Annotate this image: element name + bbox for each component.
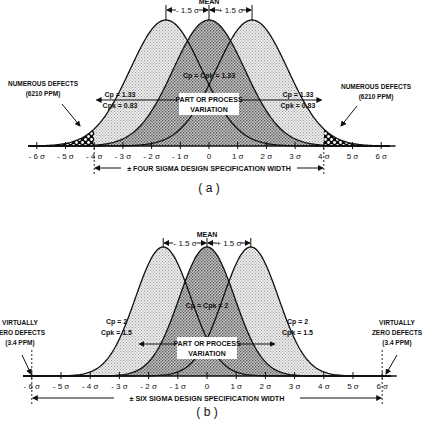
left-cp-label: Cp = 1.33	[105, 91, 136, 99]
x-tick-label: - 2 σ	[143, 152, 160, 161]
panel-b: - 6 σ- 5 σ- 4 σ- 3 σ- 2 σ- 1 σ01 σ2 σ3 σ…	[0, 231, 423, 419]
mean-label: MEAN	[197, 231, 218, 238]
x-tick-label: 1 σ	[232, 152, 244, 161]
right-cp-label: Cpk = 1.5	[282, 329, 313, 337]
x-tick-label: - 2 σ	[140, 382, 157, 391]
left-cp-label: Cp = 2	[106, 318, 127, 326]
variation-label: PART OR PROCESS	[173, 340, 240, 347]
shift-right-label: + 1.5 σ	[216, 239, 241, 248]
spec-width-label: ± FOUR SIGMA DESIGN SPECIFICATION WIDTH	[127, 164, 291, 173]
sigma-diagram: - 6 σ- 5 σ- 4 σ- 3 σ- 2 σ- 1 σ01 σ2 σ3 σ…	[0, 0, 429, 424]
x-tick-label: 5 σ	[347, 152, 359, 161]
center-cp-label: Cp = Cpk = 2	[186, 302, 229, 310]
x-tick-label: 2 σ	[260, 382, 272, 391]
left-cp-label: Cpk = 1.5	[101, 329, 132, 337]
panel-a: - 6 σ- 5 σ- 4 σ- 3 σ- 2 σ- 1 σ01 σ2 σ3 σ…	[8, 0, 412, 195]
defects-left-pointer	[62, 104, 80, 126]
x-tick-label: - 4 σ	[82, 382, 99, 391]
shift-left-label: - 1.5 σ	[174, 239, 197, 248]
defects-right-pointer	[341, 106, 357, 126]
x-tick-label: - 3 σ	[111, 382, 128, 391]
panel-caption: ( a )	[198, 181, 219, 195]
x-tick-label: - 3 σ	[115, 152, 132, 161]
defects-left-label: ZERO DEFECTS	[0, 329, 46, 336]
x-tick-label: 1 σ	[230, 382, 242, 391]
x-tick-label: - 6 σ	[29, 152, 46, 161]
defects-left-label: (3.4 PPM)	[5, 339, 34, 347]
defects-left-label: (6210 PPM)	[26, 90, 61, 98]
x-tick-label: - 5 σ	[57, 152, 74, 161]
defects-left-pointer	[22, 355, 31, 374]
variation-label: VARIATION	[188, 350, 225, 357]
variation-label: PART OR PROCESS	[175, 96, 242, 103]
x-tick-label: - 1 σ	[170, 382, 187, 391]
defects-right-label: NUMEROUS DEFECTS	[341, 83, 412, 90]
defects-right-label: (6210 PPM)	[359, 93, 394, 101]
x-tick-label: 5 σ	[347, 382, 359, 391]
spec-width-label: ± SIX SIGMA DESIGN SPECIFICATION WIDTH	[130, 394, 285, 403]
x-tick-label: 0	[205, 382, 210, 391]
x-tick-label: 3 σ	[289, 152, 301, 161]
panel-caption: ( b )	[196, 405, 217, 419]
defects-left-label: VIRTUALLY	[2, 319, 39, 326]
x-tick-label: 0	[207, 152, 212, 161]
variation-label: VARIATION	[190, 106, 227, 113]
shift-right-label: + 1.5 σ	[218, 6, 243, 15]
x-tick-label: - 5 σ	[53, 382, 70, 391]
shift-left-label: - 1.5 σ	[176, 6, 199, 15]
defects-right-label: ZERO DEFECTS	[372, 329, 423, 336]
center-cp-label: Cp = Cpk = 1.33	[183, 72, 235, 80]
right-cp-label: Cp = 2	[287, 318, 308, 326]
x-tick-label: 4 σ	[318, 382, 330, 391]
right-cp-label: Cpk = 0.83	[281, 102, 316, 110]
mean-label: MEAN	[199, 0, 220, 5]
x-tick-label: 6 σ	[375, 152, 387, 161]
x-tick-label: 2 σ	[261, 152, 273, 161]
x-tick-label: 3 σ	[289, 382, 301, 391]
defects-right-label: VIRTUALLY	[379, 319, 416, 326]
defects-right-pointer	[386, 355, 397, 374]
center-curve-fill	[31, 20, 387, 146]
left-cp-label: Cpk = 0.83	[103, 102, 138, 110]
right-cp-label: Cp = 1.33	[283, 91, 314, 99]
defects-right-label: (3.4 PPM)	[382, 339, 411, 347]
defects-left-label: NUMEROUS DEFECTS	[8, 80, 79, 87]
x-tick-label: - 1 σ	[172, 152, 189, 161]
